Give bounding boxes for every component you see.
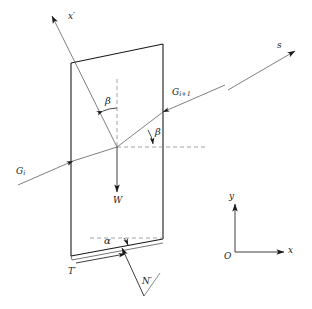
global-axes <box>235 204 284 252</box>
shear-force-vector <box>76 254 125 263</box>
angle-arcs <box>103 108 153 245</box>
x-prime-axis-line <box>52 16 117 147</box>
force-gi-subscript: i <box>23 169 25 177</box>
slice-base-edge-offset <box>72 243 163 260</box>
s-axis-arrow <box>228 51 295 90</box>
normal-force-vector <box>122 248 160 296</box>
normal-force-label: N′ <box>142 277 152 286</box>
angle-beta-right-arc <box>148 130 153 144</box>
force-gi-label: Gi <box>16 167 25 177</box>
y-axis-label: y <box>229 192 234 201</box>
angle-beta-top-label: β <box>105 96 111 106</box>
origin-label: O <box>224 252 231 261</box>
angle-beta-top-arc <box>103 108 117 111</box>
s-axis-line <box>228 51 295 90</box>
interslice-force-line <box>18 85 225 185</box>
angle-alpha-arc <box>124 238 128 245</box>
weight-label: W <box>113 196 122 205</box>
slice-top-edge <box>71 44 163 63</box>
force-gi-shaft <box>73 147 117 161</box>
force-gi1-label: Gi+1 <box>172 88 191 98</box>
force-gi-arrow <box>18 161 73 185</box>
shear-force-arrow <box>76 254 125 263</box>
shear-force-label: T′ <box>68 267 76 276</box>
x-prime-arrow <box>52 16 117 147</box>
angle-alpha-label: α <box>104 236 111 246</box>
slice-free-body-diagram: x′ s Gi Gi+1 W T′ N′ β β α y x O <box>0 0 312 309</box>
x-prime-axis-label: x′ <box>68 12 75 21</box>
normal-force-arrow <box>122 248 144 296</box>
diagram-canvas <box>0 0 312 309</box>
x-axis-label: x <box>288 246 293 255</box>
force-gi1-subscript: i+1 <box>179 90 191 98</box>
slice-base-edge <box>71 239 163 256</box>
angle-beta-right-label: β <box>155 127 161 137</box>
slice-base-corner-tick <box>71 256 72 260</box>
s-axis-label: s <box>277 41 282 50</box>
